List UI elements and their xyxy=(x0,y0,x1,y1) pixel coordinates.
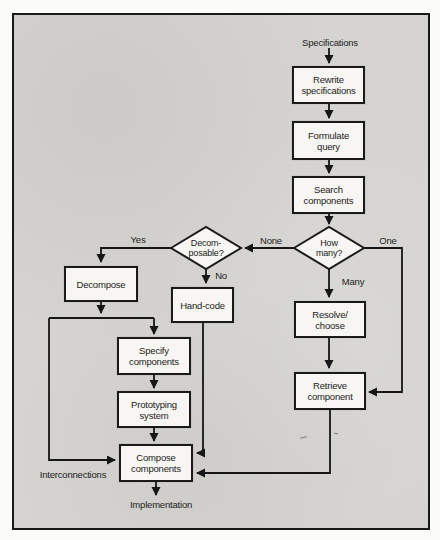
node-hand-code-label: Hand-code xyxy=(180,300,225,311)
node-rewrite-specifications: Rewrite specifications xyxy=(292,66,365,104)
node-rewrite-specifications-label: Rewrite specifications xyxy=(301,74,355,96)
node-retrieve-component-label: Retrieve component xyxy=(307,380,352,402)
scanned-figure-page: Rewrite specifications Formulate query S… xyxy=(0,0,440,540)
label-implementation: Implementation xyxy=(130,499,192,510)
node-prototyping-system-label: Prototyping system xyxy=(131,399,177,421)
edge-interconnections-to-compose xyxy=(49,318,115,460)
node-resolve-choose-label: Resolve/ choose xyxy=(312,309,347,331)
edge-decomposable-yes-to-decompose xyxy=(101,248,171,262)
node-search-components: Search components xyxy=(292,176,365,214)
node-specify-components-label: Specify components xyxy=(129,345,179,367)
node-compose-components: Compose components xyxy=(119,444,193,482)
diamond-how-many-label: How many? xyxy=(316,238,342,258)
label-no: No xyxy=(215,270,227,281)
label-none: None xyxy=(260,235,282,246)
label-specifications: Specifications xyxy=(302,37,358,48)
diamond-decomposable-label: Decom- posable? xyxy=(189,238,224,258)
label-interconnections: Interconnections xyxy=(40,469,107,480)
label-one: One xyxy=(379,235,396,246)
node-prototyping-system: Prototyping system xyxy=(117,391,191,428)
node-formulate-query: Formulate query xyxy=(292,121,365,160)
label-yes: Yes xyxy=(131,234,146,245)
node-specify-components: Specify components xyxy=(117,337,191,375)
node-retrieve-component: Retrieve component xyxy=(294,372,366,410)
node-compose-components-label: Compose components xyxy=(131,452,181,474)
node-formulate-query-label: Formulate query xyxy=(308,130,349,152)
node-resolve-choose: Resolve/ choose xyxy=(294,301,366,338)
edge-handcode-to-compose xyxy=(197,322,203,453)
edge-howmany-one-to-retrieve xyxy=(364,248,402,392)
node-decompose-label: Decompose xyxy=(77,279,126,290)
node-decompose: Decompose xyxy=(64,266,138,302)
edge-retrieve-to-compose xyxy=(197,410,330,473)
node-search-components-label: Search components xyxy=(304,184,354,206)
label-many: Many xyxy=(342,276,364,287)
node-hand-code: Hand-code xyxy=(171,287,234,323)
